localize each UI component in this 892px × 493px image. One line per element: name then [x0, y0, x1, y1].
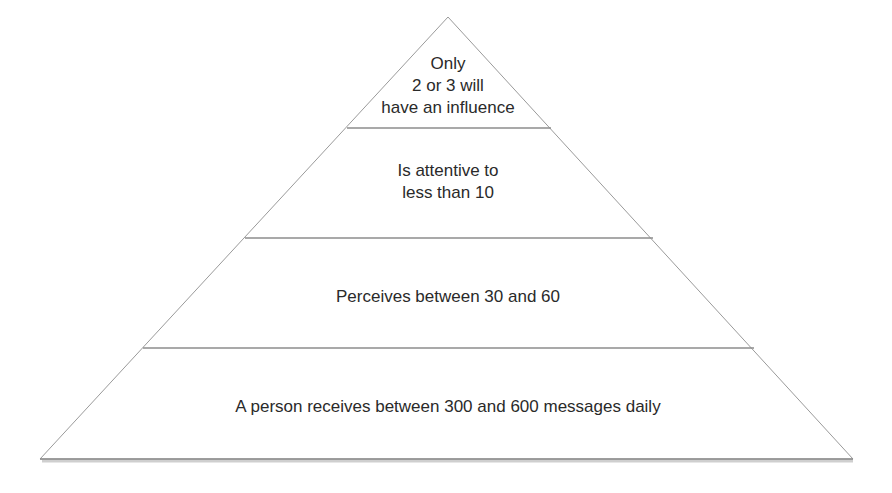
- pyramid-diagram: Only 2 or 3 will have an influence Is at…: [0, 0, 892, 493]
- tier-1-label: Only 2 or 3 will have an influence: [381, 53, 514, 119]
- tier-3-label: Perceives between 30 and 60: [336, 286, 560, 308]
- tier-4-label: A person receives between 300 and 600 me…: [235, 396, 660, 418]
- tier-2-label: Is attentive to less than 10: [397, 160, 498, 204]
